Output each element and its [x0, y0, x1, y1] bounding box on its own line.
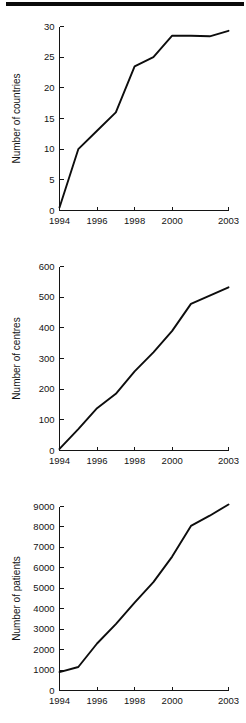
chart-0-ytick-label: 30 [44, 21, 55, 32]
chart-2-series-line [60, 504, 229, 672]
chart-2-svg: 0100020003000400050006000700080009000199… [0, 492, 246, 720]
chart-panel-patients: 0100020003000400050006000700080009000199… [0, 492, 246, 720]
chart-1-xtick-label: 1998 [124, 455, 145, 466]
chart-2-ytick-label: 9000 [33, 501, 54, 512]
chart-2-ytick-label: 4000 [33, 603, 54, 614]
chart-1-ytick-label: 300 [39, 353, 55, 364]
chart-2-y-axis-title: Number of patients [11, 556, 22, 641]
chart-0-xtick-label: 2000 [162, 215, 183, 226]
chart-2-xtick-label: 2003 [218, 695, 239, 706]
chart-1-svg: 010020030040050060019941996199820002003N… [0, 252, 246, 480]
chart-1-ytick-label: 500 [39, 291, 55, 302]
chart-0-xtick-label: 1998 [124, 215, 145, 226]
chart-0-ytick-label: 20 [44, 82, 55, 93]
chart-panel-centres: 010020030040050060019941996199820002003N… [0, 252, 246, 480]
chart-0-ytick-label: 25 [44, 51, 55, 62]
chart-1-xtick-label: 1996 [86, 455, 107, 466]
chart-0-svg: 05101520253019941996199820002003Number o… [0, 12, 246, 240]
chart-2-xtick-label: 1994 [49, 695, 70, 706]
chart-1-series-line [60, 287, 229, 449]
chart-2-ytick-label: 8000 [33, 521, 54, 532]
chart-2-axis-spine [60, 507, 229, 691]
chart-1-ytick-label: 100 [39, 414, 55, 425]
chart-0-ytick-label: 10 [44, 143, 55, 154]
chart-2-ytick-label: 1000 [33, 664, 54, 675]
chart-2-xtick-label: 1996 [86, 695, 107, 706]
top-rule-divider [6, 2, 244, 6]
chart-panel-countries: 05101520253019941996199820002003Number o… [0, 12, 246, 240]
chart-2-ytick-label: 6000 [33, 562, 54, 573]
chart-2-ytick-label: 7000 [33, 541, 54, 552]
chart-2-xtick-label: 1998 [124, 695, 145, 706]
chart-0-xtick-label: 1996 [86, 215, 107, 226]
chart-0-ytick-label: 15 [44, 113, 55, 124]
chart-0-ytick-label: 5 [49, 174, 54, 185]
chart-1-xtick-label: 1994 [49, 455, 70, 466]
chart-1-ytick-label: 600 [39, 261, 55, 272]
chart-2-xtick-label: 2000 [162, 695, 183, 706]
chart-2-ytick-label: 3000 [33, 623, 54, 634]
chart-0-xtick-label: 1994 [49, 215, 70, 226]
chart-2-ytick-label: 5000 [33, 582, 54, 593]
chart-2-ytick-label: 2000 [33, 644, 54, 655]
chart-0-xtick-label: 2003 [218, 215, 239, 226]
chart-1-ytick-label: 400 [39, 322, 55, 333]
chart-0-axis-spine [60, 27, 229, 211]
chart-1-xtick-label: 2000 [162, 455, 183, 466]
chart-1-y-axis-title: Number of centres [11, 317, 22, 399]
chart-0-y-axis-title: Number of countries [11, 73, 22, 163]
chart-0-series-line [60, 31, 229, 208]
chart-1-xtick-label: 2003 [218, 455, 239, 466]
figure-page: 05101520253019941996199820002003Number o… [0, 0, 246, 723]
chart-1-ytick-label: 200 [39, 383, 55, 394]
